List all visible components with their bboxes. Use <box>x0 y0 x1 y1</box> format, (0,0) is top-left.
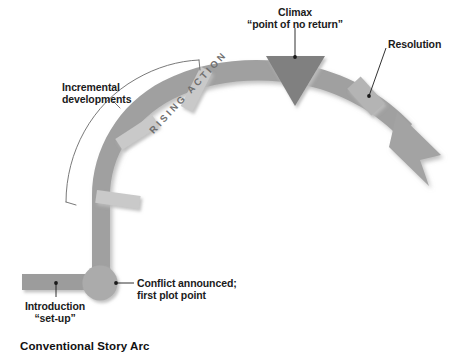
leader-resolution <box>369 48 386 96</box>
label-introduction: Introduction “set-up” <box>7 300 103 325</box>
label-conflict-announced: Conflict announced; first plot point <box>137 277 257 302</box>
label-resolution: Resolution <box>388 38 458 50</box>
diagram-caption: Conventional Story Arc <box>20 340 150 352</box>
first-plot-point-circle <box>83 266 118 301</box>
story-arc-diagram: Climax “point of no return” Resolution I… <box>0 0 461 362</box>
label-incremental-developments: Incremental developments <box>62 81 172 106</box>
label-climax: Climax “point of no return” <box>228 6 362 31</box>
